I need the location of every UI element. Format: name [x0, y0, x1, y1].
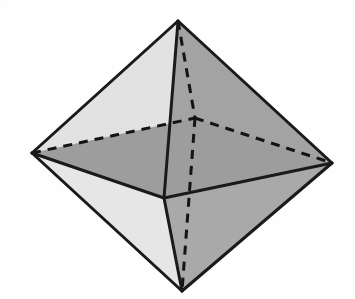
octahedron-faces [32, 21, 332, 291]
octahedron-drawing [0, 0, 355, 299]
octahedron-figure [0, 0, 355, 299]
